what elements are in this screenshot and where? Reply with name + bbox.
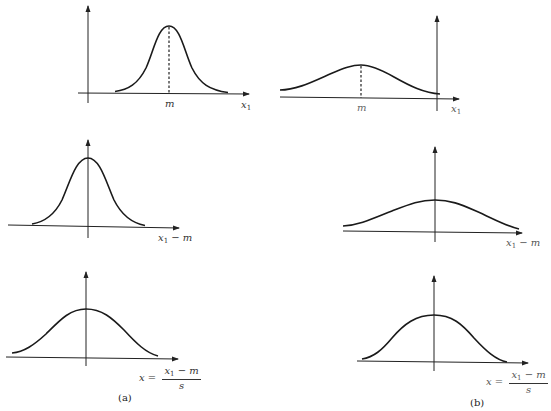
normal-curve xyxy=(115,26,228,93)
panel-b-top-x-axis-label: x1 xyxy=(451,104,461,116)
panel-a-top-mean-label: m xyxy=(165,99,174,109)
panel-a-middle-plot xyxy=(8,140,179,238)
normal-curve xyxy=(12,309,158,356)
fraction: x1 − m s xyxy=(162,366,200,391)
normal-curve xyxy=(280,65,440,94)
x-subscript: 1 xyxy=(457,108,461,116)
num-rest: − m xyxy=(178,365,199,376)
panel-a-top-plot xyxy=(78,6,249,103)
panel-a-bottom-plot xyxy=(6,272,178,366)
numerator: x1 − m xyxy=(509,370,547,384)
lhs: x = xyxy=(486,376,503,387)
panel-a-top-x-axis-label: x1 xyxy=(241,100,251,112)
panel-b-middle-plot xyxy=(343,147,522,242)
normal-distribution-standardization-diagram: m x1 x1 − m x = x1 − m s (a) m x1 x1 − m… xyxy=(0,0,551,411)
denominator: s xyxy=(526,384,531,395)
panel-b-top-mean-label: m xyxy=(357,103,366,113)
panel-b-middle-x-axis-label: x1 − m xyxy=(506,238,540,250)
panel-a-bottom-x-axis-label: x = x1 − m s xyxy=(139,366,201,391)
num-subscript: 1 xyxy=(517,374,521,382)
x-axis xyxy=(6,357,178,359)
minus-m: − m xyxy=(171,232,192,243)
num-subscript: 1 xyxy=(170,370,174,378)
panel-a-middle-x-axis-label: x1 − m xyxy=(158,233,192,245)
x-subscript: 1 xyxy=(512,242,516,250)
x-axis xyxy=(8,225,179,228)
x-axis xyxy=(78,93,249,94)
x-subscript: 1 xyxy=(164,237,168,245)
numerator: x1 − m xyxy=(162,366,200,380)
panel-b-top-plot xyxy=(280,16,459,111)
x-axis xyxy=(343,231,522,233)
panel-a-caption: (a) xyxy=(118,393,132,403)
num-rest: − m xyxy=(525,369,546,380)
panel-b-caption: (b) xyxy=(470,398,484,408)
minus-m: − m xyxy=(519,237,540,248)
fraction: x1 − m s xyxy=(509,370,547,395)
panel-b-bottom-x-axis-label: x = x1 − m s xyxy=(486,370,548,395)
diagram-graphics xyxy=(0,0,551,411)
x-axis xyxy=(280,97,459,99)
panel-b-bottom-plot xyxy=(357,276,528,371)
lhs: x = xyxy=(139,372,156,383)
denominator: s xyxy=(179,380,184,391)
x-subscript: 1 xyxy=(247,104,251,112)
normal-curve xyxy=(343,200,519,229)
